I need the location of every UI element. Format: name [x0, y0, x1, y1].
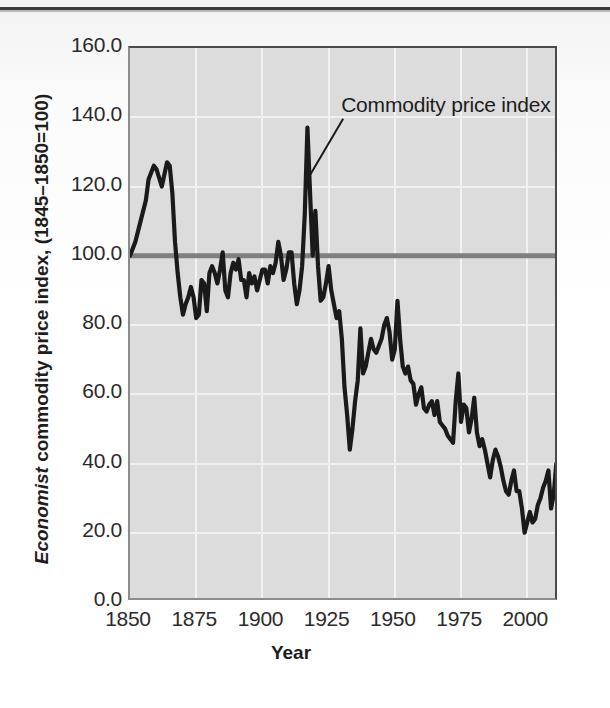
x-axis-tick-label: 1975 — [436, 607, 482, 631]
y-axis-tick-label: 20.0 — [4, 518, 122, 542]
x-axis-tick-label: 1850 — [105, 607, 151, 631]
y-axis-tick-label: 40.0 — [4, 449, 122, 473]
series-canvas — [130, 48, 557, 600]
y-axis-tick-label: 120.0 — [4, 172, 122, 196]
y-axis-tick-label: 60.0 — [4, 379, 122, 403]
y-axis-title-rest: commodity price index, (1845–1850=100) — [31, 94, 52, 467]
annotation-commodity-price-index: Commodity price index — [341, 93, 550, 117]
commodity-price-index-chart: 0.020.040.060.080.0100.0120.0140.0160.0 … — [0, 0, 610, 708]
y-axis-title-italic: Economist — [31, 467, 52, 564]
y-axis-tick-label: 140.0 — [4, 102, 122, 126]
commodity-price-index-line — [130, 128, 556, 533]
x-axis-tick-label: 2000 — [502, 607, 548, 631]
x-axis-tick-labels: 1850187519001925195019752000 — [0, 607, 610, 641]
x-axis-title: Year — [0, 642, 610, 664]
y-axis-title: Economist commodity price index, (1845–1… — [31, 49, 53, 609]
y-axis-tick-label: 100.0 — [4, 241, 122, 265]
x-axis-tick-label: 1900 — [238, 607, 284, 631]
y-axis-tick-labels: 0.020.040.060.080.0100.0120.0140.0160.0 — [0, 0, 122, 708]
plot-area — [128, 46, 557, 600]
x-axis-tick-label: 1875 — [171, 607, 217, 631]
y-axis-tick-label: 80.0 — [4, 310, 122, 334]
x-axis-title-text: Year — [271, 642, 311, 664]
y-axis-tick-label: 160.0 — [4, 33, 122, 57]
x-axis-tick-label: 1950 — [370, 607, 416, 631]
x-axis-tick-label: 1925 — [304, 607, 350, 631]
